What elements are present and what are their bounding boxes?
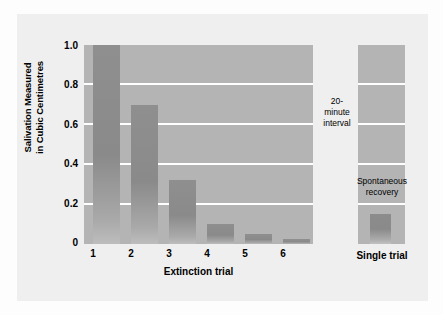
x-axis-title-right: Single trial: [340, 250, 424, 261]
y-tick-label-1.0: 1.0: [48, 41, 78, 51]
bar-trial-5: [245, 234, 272, 244]
y-axis-title-line-1: Salivation Measured: [22, 63, 33, 153]
x-axis-title: Extinction trial: [84, 266, 313, 277]
x-tick-label-6: 6: [270, 248, 296, 259]
gridline-right-0.8: [358, 83, 405, 85]
gridline-right-0.2: [358, 203, 405, 205]
x-tick-label-3: 3: [156, 248, 182, 259]
y-tick-label-0.2: 0.2: [48, 199, 78, 209]
bar-spontaneous-recovery: [370, 214, 391, 244]
interval-annotation-line-1: 20-: [331, 96, 343, 106]
y-tick-label-0.4: 0.4: [48, 159, 78, 169]
bar-trial-4: [207, 224, 234, 244]
y-tick-label-0.6: 0.6: [48, 120, 78, 130]
spontaneous-recovery-annotation: Spontaneous recovery: [344, 176, 420, 198]
bar-trial-1: [93, 45, 120, 244]
interval-annotation-line-3: interval: [323, 118, 350, 128]
y-axis-title: Salivation Measured in Cubic Centimetres: [22, 13, 45, 203]
x-tick-label-1: 1: [80, 248, 106, 259]
x-tick-label-2: 2: [118, 248, 144, 259]
bar-trial-2: [131, 105, 158, 244]
recovery-annotation-line-2: recovery: [366, 187, 399, 197]
figure-canvas: Salivation Measured in Cubic Centimetres…: [0, 0, 443, 315]
x-tick-label-4: 4: [194, 248, 220, 259]
interval-annotation-line-2: minute: [324, 107, 350, 117]
x-tick-label-5: 5: [232, 248, 258, 259]
recovery-annotation-line-1: Spontaneous: [357, 176, 407, 186]
single-trial-plot-area: [358, 45, 405, 244]
extinction-plot-area: [84, 45, 313, 244]
bar-trial-3: [169, 180, 196, 244]
interval-annotation: 20- minute interval: [316, 96, 358, 129]
y-tick-label-0: 0: [48, 238, 78, 248]
bar-trial-6: [283, 239, 310, 244]
gridline-right-0.4: [358, 163, 405, 165]
y-tick-label-0.8: 0.8: [48, 80, 78, 90]
y-axis-title-line-2: in Cubic Centimetres: [33, 61, 44, 154]
gridline-right-0.6: [358, 123, 405, 125]
